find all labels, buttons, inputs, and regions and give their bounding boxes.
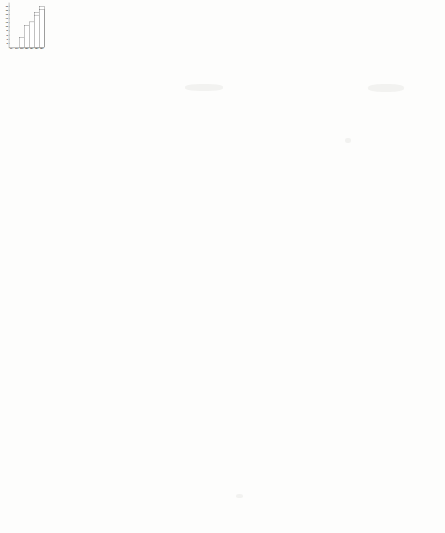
bar-1979[interactable] <box>29 22 34 48</box>
y-tick-label: 160 <box>6 14 9 16</box>
bars-group <box>19 6 44 47</box>
scan-speckle <box>185 84 223 91</box>
y-tick-label: 140 <box>6 18 9 20</box>
y-tick-label: 40 <box>7 39 9 41</box>
bar-1978[interactable] <box>24 26 29 48</box>
y-tick-label: 180 <box>6 10 9 12</box>
y-tick-label: 80 <box>7 30 9 32</box>
bar-chart: 20 40 60 80 100 120 140 160 180 200 1977… <box>0 0 51 52</box>
x-tick-label-1983: 1983 <box>40 48 43 50</box>
y-tick-label: 100 <box>6 26 9 28</box>
scan-speckle <box>368 84 404 92</box>
scan-speckle <box>345 138 351 143</box>
y-axis-tick-labels: 20 40 60 80 100 120 140 160 180 200 <box>6 6 9 45</box>
y-tick-label: 120 <box>6 22 9 24</box>
x-tick-label-1982: 1982 <box>35 48 38 50</box>
x-tick-label-1980: 1980 <box>25 48 28 50</box>
x-axis-tick-labels: 1977 1978 1979 1980 1981 1982 1983 <box>10 48 43 50</box>
bar-1977[interactable] <box>19 37 24 47</box>
x-tick-label-1978: 1978 <box>15 48 18 50</box>
x-tick-label-1979: 1979 <box>20 48 23 50</box>
x-tick-label-1977: 1977 <box>10 48 13 50</box>
y-tick-label: 200 <box>6 6 9 8</box>
x-tick-label-1981: 1981 <box>30 48 33 50</box>
y-tick-label: 20 <box>7 43 9 45</box>
scan-speckle <box>236 494 243 498</box>
y-tick-label: 60 <box>7 35 9 37</box>
bar-1983[interactable] <box>39 9 44 47</box>
bar-chart-screenshot: 20 40 60 80 100 120 140 160 180 200 1977… <box>0 0 445 533</box>
bar-1982[interactable] <box>34 15 39 47</box>
